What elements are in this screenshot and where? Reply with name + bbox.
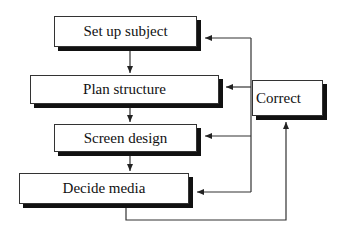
- feedback-correct: Correct: [252, 80, 323, 116]
- step-decide-media: Decide media: [19, 173, 189, 204]
- step-label: Decide media: [63, 180, 146, 197]
- step-label: Plan structure: [83, 81, 166, 98]
- step-set-up-subject: Set up subject: [54, 16, 197, 47]
- step-label: Set up subject: [83, 23, 167, 40]
- step-label: Screen design: [84, 130, 168, 147]
- step-screen-design: Screen design: [54, 124, 197, 152]
- feedback-label: Correct: [256, 90, 301, 107]
- step-plan-structure: Plan structure: [30, 75, 219, 104]
